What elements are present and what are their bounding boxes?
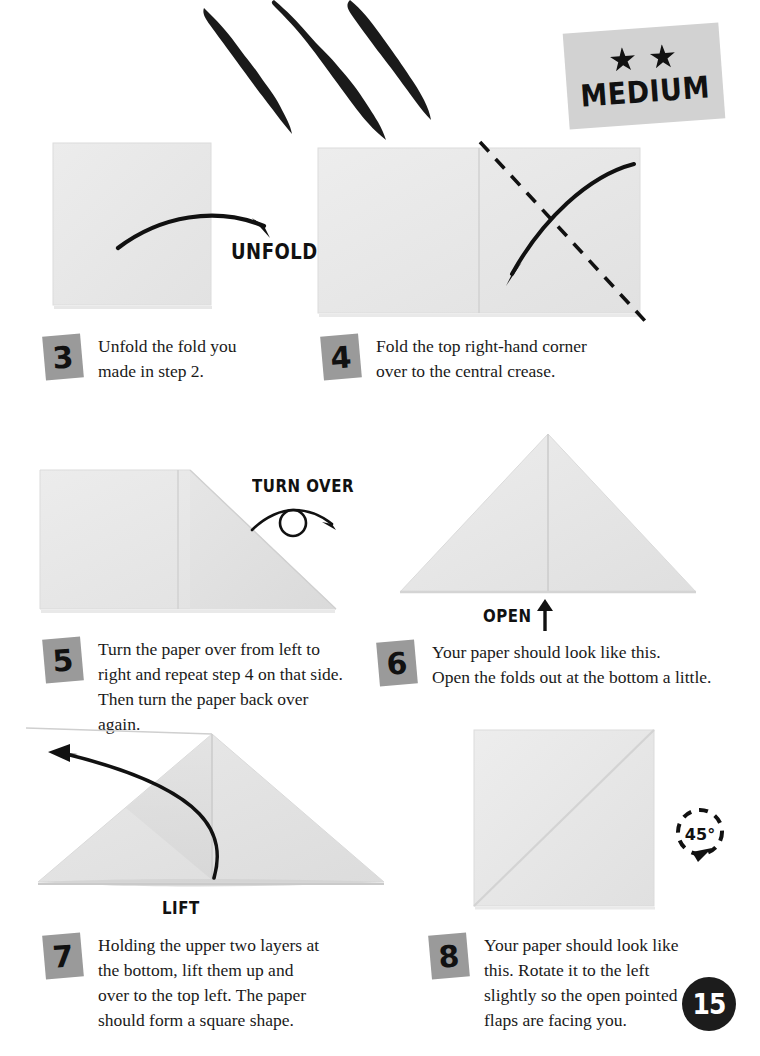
step-instruction-text: Fold the top right-hand corner over to t… (376, 333, 587, 384)
rotation-value: 45 (685, 825, 707, 844)
step-number-badge: 3 (42, 333, 84, 380)
action-label-open: OPEN (483, 606, 532, 627)
step-number-badge: 7 (42, 932, 84, 979)
step-number: 3 (43, 334, 84, 381)
claw-marks-decoration (196, 0, 456, 144)
page-number: 15 (693, 988, 726, 1020)
difficulty-badge: MEDIUM (563, 22, 726, 129)
degree-symbol: ° (707, 825, 715, 844)
step-number-badge: 5 (42, 636, 84, 683)
step-number-badge: 6 (376, 639, 418, 686)
step-instruction-text: Unfold the fold you made in step 2. (98, 333, 237, 384)
diagram-step-7 (26, 728, 392, 900)
step-5: 5 Turn the paper over from left to right… (44, 636, 354, 736)
diagram-step-4 (316, 146, 650, 326)
open-arrow-up (533, 598, 557, 632)
step-number: 7 (43, 933, 84, 980)
step-6: 6 Your paper should look like this. Open… (378, 639, 718, 690)
step-number: 4 (321, 334, 362, 381)
step-number: 8 (429, 933, 470, 980)
step-3: 3 Unfold the fold you made in step 2. (44, 333, 314, 384)
step-number: 6 (377, 640, 418, 687)
star-icon (649, 43, 677, 71)
difficulty-label: MEDIUM (579, 69, 711, 113)
origami-instruction-page: MEDIUM UNFOLD (0, 0, 760, 1056)
diagram-step-6 (396, 430, 700, 602)
step-instruction-text: Your paper should look like this. Rotate… (484, 932, 679, 1032)
star-icon (609, 46, 637, 74)
step-8: 8 Your paper should look like this. Rota… (430, 932, 720, 1032)
turn-over-arrow (248, 500, 340, 542)
step-instruction-text: Your paper should look like this. Open t… (432, 639, 711, 690)
action-label-turn-over: TURN OVER (252, 476, 354, 497)
action-label-lift: LIFT (162, 898, 200, 919)
step-number-badge: 8 (428, 932, 470, 979)
page-number-badge: 15 (682, 977, 736, 1031)
diagram-step-8 (472, 728, 658, 910)
action-label-unfold: UNFOLD (231, 239, 318, 263)
step-7: 7 Holding the upper two layers at the bo… (44, 932, 354, 1032)
difficulty-stars (609, 43, 677, 74)
step-instruction-text: Turn the paper over from left to right a… (98, 636, 354, 736)
step-4: 4 Fold the top right-hand corner over to… (322, 333, 652, 384)
step-number: 5 (43, 637, 84, 684)
step-instruction-text: Holding the upper two layers at the bott… (98, 932, 319, 1032)
step-number-badge: 4 (320, 333, 362, 380)
rotation-45-indicator: 45° (662, 796, 738, 872)
rotation-degrees-label: 45° (662, 796, 738, 872)
